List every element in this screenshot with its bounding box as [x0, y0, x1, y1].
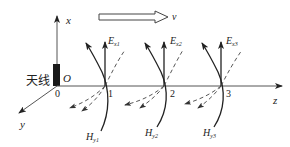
point-1-tick: 1	[108, 88, 113, 99]
velocity-arrow-icon	[99, 11, 168, 23]
z-axis-label: z	[272, 94, 278, 106]
e-label-2: Ex2	[169, 35, 182, 47]
h-label-2: Hy2	[144, 127, 158, 139]
e-label-1: Ex1	[107, 35, 120, 47]
x-axis-label: x	[65, 14, 71, 26]
point-2-tick: 2	[170, 88, 175, 99]
h-label-3: Hy3	[202, 127, 216, 139]
velocity-label: v	[172, 11, 177, 22]
antenna-label: 天线	[26, 74, 50, 88]
h-field-curve-2	[145, 43, 166, 127]
h-field-curve-3	[202, 43, 223, 127]
field-point-1: 1 Ex1 Hy1	[70, 35, 125, 143]
h-label-1: Hy1	[85, 131, 99, 143]
antenna-icon	[53, 64, 60, 86]
origin-tick: 0	[55, 88, 60, 99]
e-label-3: Ex3	[225, 35, 238, 47]
field-point-2: 2 Ex2 Hy2	[125, 35, 183, 139]
origin-label: O	[63, 72, 71, 84]
y-axis-label: y	[19, 118, 25, 130]
y-axis: y	[19, 86, 57, 130]
field-point-3: 3 Ex3 Hy3	[185, 35, 242, 139]
point-3-tick: 3	[226, 88, 231, 99]
em-wave-propagation-diagram: x 天线 O 0 z y v 1 Ex1 Hy1 2 Ex2 Hy2	[0, 0, 290, 147]
